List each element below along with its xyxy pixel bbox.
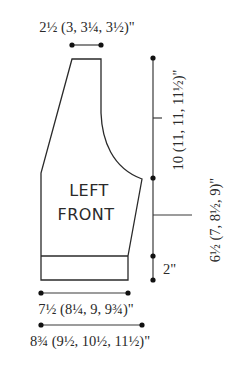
neck-width-dimension	[69, 42, 103, 47]
armhole-depth-label: 10 (11, 11, 11½)"	[170, 69, 187, 170]
neck-width-label: 2½ (3, 3¼, 3½)"	[39, 19, 134, 36]
body-width-label: 8¾ (9½, 10½, 11½)"	[30, 333, 150, 350]
side-length-label: 6½ (7, 8½, 9)"	[207, 178, 224, 263]
piece-label-front: FRONT	[57, 205, 114, 224]
ribbing-width-label: 7½ (8¼, 9, 9¾)"	[38, 301, 133, 318]
left-front-outline	[41, 59, 142, 280]
ribbing-width-dimension	[38, 290, 130, 295]
piece-label-left: LEFT	[69, 181, 109, 200]
ribbing-height-label: 2"	[163, 261, 176, 277]
body-width-dimension	[38, 322, 144, 327]
schematic-diagram: LEFT FRONT 2½ (3, 3¼, 3½)" 10 (11, 11, 1…	[0, 0, 236, 369]
